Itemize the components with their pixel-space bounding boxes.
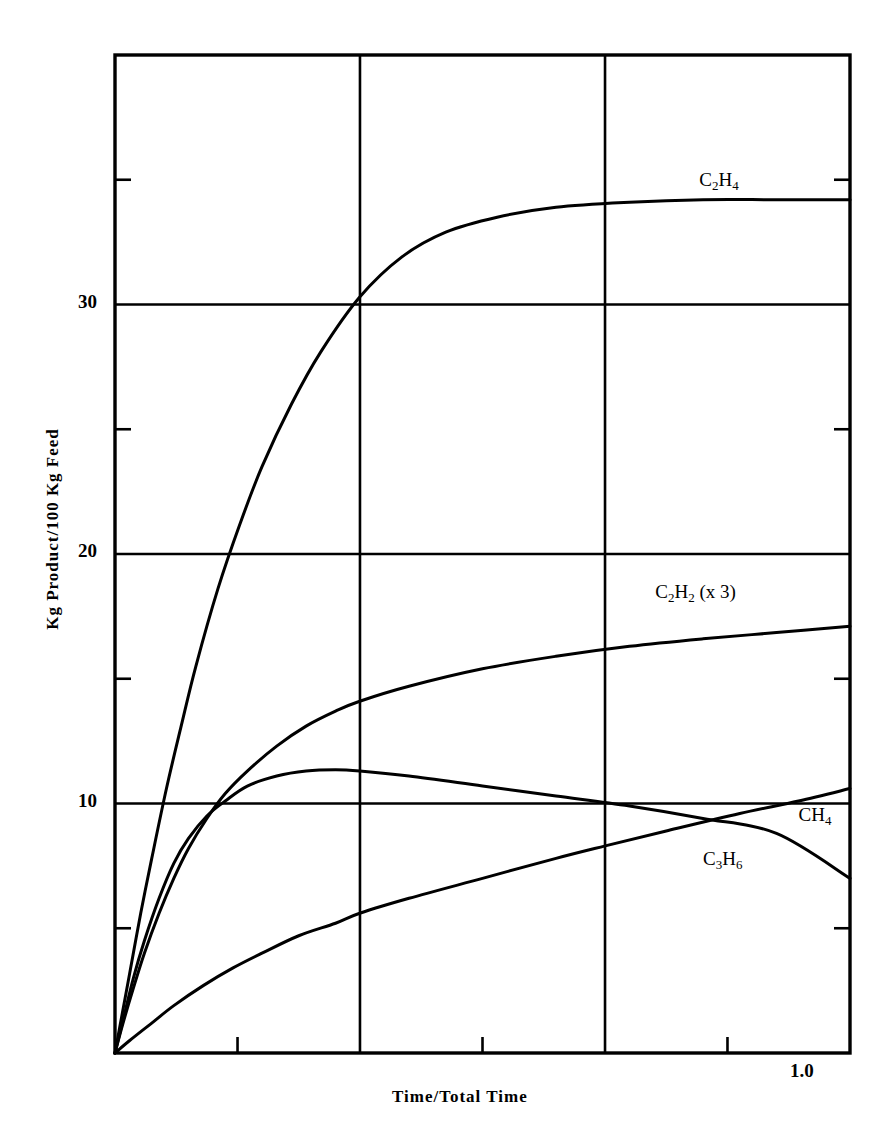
y-tick-label-10: 10 (78, 790, 97, 812)
y-tick-label-20: 20 (78, 540, 97, 562)
x-axis-title: Time/Total Time (392, 1087, 528, 1107)
series-label-ch4-sub1: 4 (825, 813, 832, 828)
y-axis-title: Kg Product/100 Kg Feed (43, 414, 63, 644)
series-label-c2h2: C2H2 (x 3) (655, 581, 736, 606)
series-label-c2h4-base1: C (699, 169, 712, 190)
series-label-c2h4-base2: H (719, 169, 733, 190)
series-label-c3h6: C3H6 (703, 848, 742, 873)
chart-figure: 30 20 10 1.0 Kg Product/100 Kg Feed Time… (0, 0, 879, 1129)
series-label-ch4-base1: CH (799, 804, 825, 825)
series-label-c2h2-suffix: (x 3) (695, 581, 736, 602)
series-label-c2h4-sub2: 4 (732, 178, 739, 193)
series-label-c3h6-base2: H (722, 848, 736, 869)
series-label-c2h4: C2H4 (699, 169, 738, 194)
x-tick-label-max: 1.0 (790, 1060, 814, 1082)
series-label-c3h6-sub2: 6 (736, 857, 743, 872)
series-label-c3h6-base1: C (703, 848, 716, 869)
series-label-ch4: CH4 (799, 804, 832, 829)
series-label-c2h2-base2: H (674, 581, 688, 602)
series-label-c2h2-base1: C (655, 581, 668, 602)
y-tick-label-30: 30 (78, 291, 97, 313)
line-chart (0, 0, 879, 1129)
